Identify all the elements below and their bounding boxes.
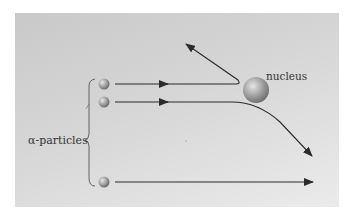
trajectory-reflected [115, 44, 239, 84]
particles-brace [85, 79, 95, 186]
scattering-diagram: α-particles nucleus [0, 0, 352, 223]
nucleus-label: nucleus [266, 70, 307, 82]
particles-label: α-particles [28, 134, 88, 147]
trajectory-deflected [115, 102, 312, 156]
particle-bottom [99, 177, 110, 188]
particle-top [99, 79, 110, 90]
particle-middle [99, 97, 110, 108]
